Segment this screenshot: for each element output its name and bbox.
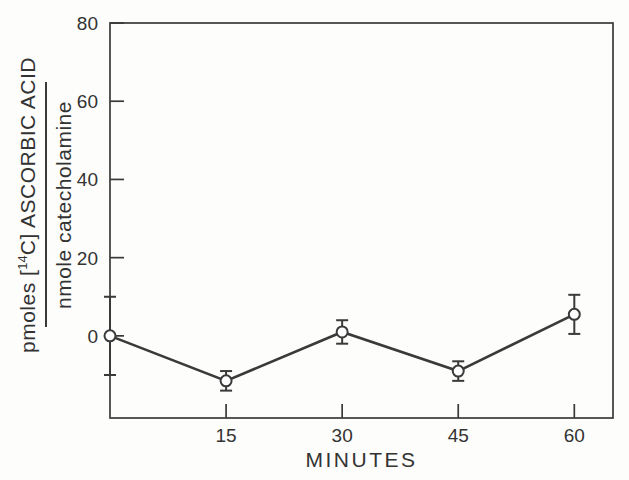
y-axis-label-denominator: nmole catecholamine	[51, 101, 77, 309]
data-point-marker	[337, 326, 348, 337]
x-axis-tick-label: 15	[216, 425, 237, 446]
data-point-marker	[221, 375, 232, 386]
x-axis-tick-label: 60	[564, 425, 585, 446]
figure: 02040608015304560 pmoles [14C] ASCORBIC …	[0, 0, 629, 480]
y-axis-label-numerator-prefix: pmoles [	[16, 270, 39, 353]
data-point-marker	[105, 330, 116, 341]
y-axis-label-numerator-suffix: C] ASCORBIC ACID	[16, 57, 39, 255]
x-axis-tick-label: 45	[448, 425, 469, 446]
chart-svg: 02040608015304560	[0, 0, 629, 480]
isotope-superscript: 14	[15, 255, 30, 269]
x-axis-tick-label: 30	[332, 425, 353, 446]
y-axis-tick-label: 0	[87, 326, 98, 347]
axes-frame	[110, 23, 613, 418]
fraction-line	[45, 83, 47, 328]
y-axis-label: pmoles [14C] ASCORBIC ACID nmole catecho…	[3, 15, 83, 395]
y-axis-label-numerator: pmoles [14C] ASCORBIC ACID	[10, 57, 41, 353]
x-axis-title: MINUTES	[110, 448, 613, 472]
data-point-marker	[569, 309, 580, 320]
data-point-marker	[453, 366, 464, 377]
